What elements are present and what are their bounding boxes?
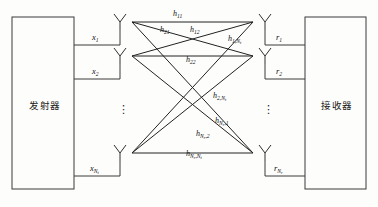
tx-antenna-2 <box>114 48 126 64</box>
channel-label-h1Nt: h1,Nt <box>228 35 241 43</box>
channel-label-h21: h21 <box>160 26 170 34</box>
rx-signal-label-1: r1 <box>276 33 282 42</box>
rx-lead-1 <box>265 30 305 45</box>
transmitter-label: 发射器 <box>29 98 61 112</box>
rx-antenna-2 <box>259 48 271 64</box>
channel-label-h11: h11 <box>173 10 182 18</box>
receiver-label: 接收器 <box>321 98 353 112</box>
mimo-system-diagram: 发射器 接收器 x1 x2 xNt r1 r2 rNr ⋮ ⋮ h11 h21 … <box>0 0 378 207</box>
rx-signal-label-nr: rNr <box>274 164 283 173</box>
channel-label-h22: h22 <box>186 56 196 64</box>
rx-antenna-1 <box>259 14 271 30</box>
rx-antenna-nr <box>259 145 271 161</box>
rx-lead-2 <box>265 64 305 79</box>
tx-antenna-nt <box>114 145 126 161</box>
channel-label-h2Nt: h2,Nt <box>213 92 226 100</box>
channel-label-hNr1: hNr,1 <box>215 117 229 125</box>
tx-signal-label-2: x2 <box>92 67 99 76</box>
channel-label-hNr2: hNr,2 <box>196 130 210 138</box>
tx-signal-label-nt: xNt <box>90 164 99 173</box>
tx-ellipsis: ⋮ <box>118 104 129 115</box>
rx-ellipsis: ⋮ <box>263 104 274 115</box>
channel-label-h12: h12 <box>190 26 200 34</box>
rx-lead-nr <box>265 161 305 176</box>
tx-signal-label-1: x1 <box>92 33 99 42</box>
channel-label-hNrNt: hNr,Nt <box>186 150 202 158</box>
tx-antenna-1 <box>114 14 126 30</box>
rx-signal-label-2: r2 <box>276 67 282 76</box>
